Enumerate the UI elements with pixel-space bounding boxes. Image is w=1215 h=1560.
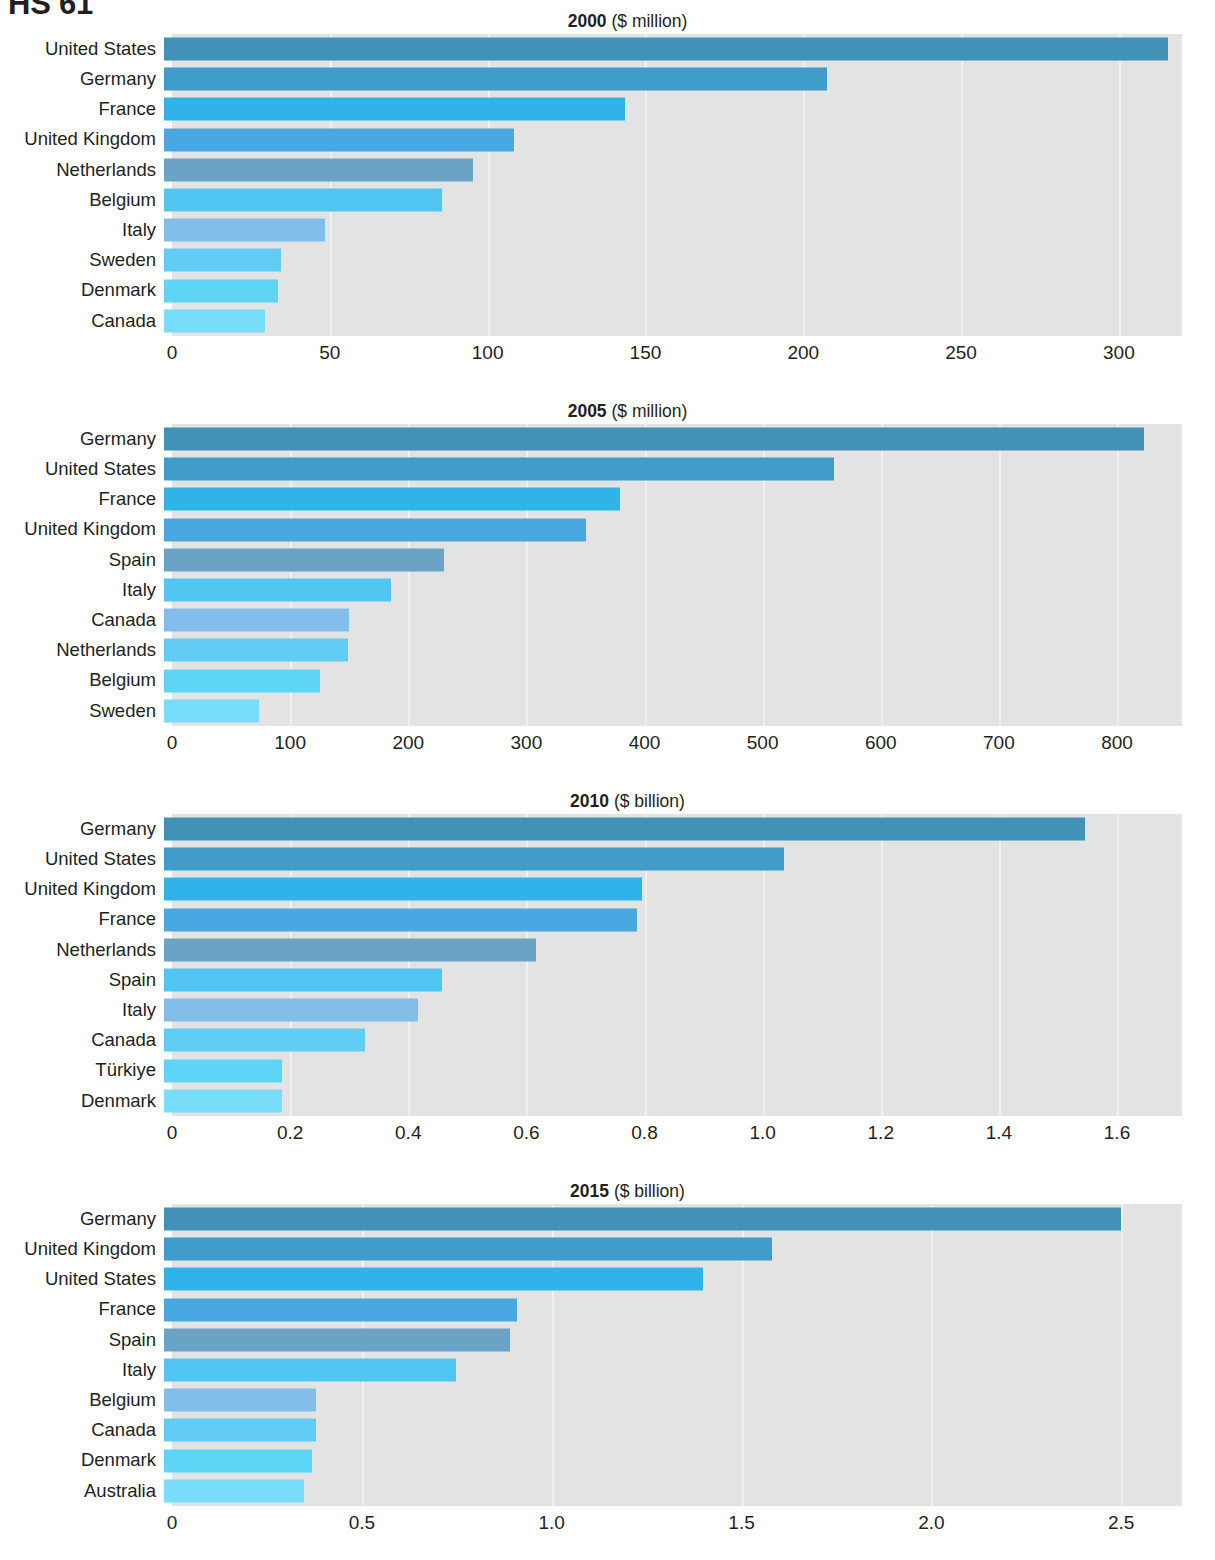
x-axis: 050100150200250300 xyxy=(0,336,1215,370)
category-label: France xyxy=(0,100,164,119)
bar-track xyxy=(164,605,1215,635)
bar xyxy=(164,969,442,992)
bar xyxy=(164,1419,316,1442)
bar-row: United States xyxy=(0,454,1215,484)
bar-track xyxy=(164,245,1215,275)
bar xyxy=(164,428,1144,451)
bar-row: Italy xyxy=(0,1355,1215,1385)
bar xyxy=(164,128,514,151)
category-label: Germany xyxy=(0,1210,164,1229)
bar-track xyxy=(164,1325,1215,1355)
bar-row: Türkiye xyxy=(0,1056,1215,1086)
chart-title-unit: ($ billion) xyxy=(609,1181,685,1201)
bar xyxy=(164,1449,312,1472)
bar-row: Canada xyxy=(0,605,1215,635)
category-label: Italy xyxy=(0,1001,164,1020)
bar-row: Belgium xyxy=(0,666,1215,696)
category-label: Türkiye xyxy=(0,1061,164,1080)
bar-track xyxy=(164,635,1215,665)
bar xyxy=(164,189,442,212)
x-axis-tick-label: 1.2 xyxy=(868,1122,894,1144)
bar xyxy=(164,609,349,632)
category-label: Italy xyxy=(0,581,164,600)
bar xyxy=(164,1029,365,1052)
bar-row: Denmark xyxy=(0,1086,1215,1116)
category-label: France xyxy=(0,490,164,509)
x-axis-tick-label: 2.5 xyxy=(1108,1512,1134,1534)
bar-row: Australia xyxy=(0,1476,1215,1506)
bar-track xyxy=(164,1234,1215,1264)
x-axis-tick-label: 0 xyxy=(167,732,178,754)
category-label: Denmark xyxy=(0,281,164,300)
bar-row: Netherlands xyxy=(0,635,1215,665)
bar xyxy=(164,1298,517,1321)
bar-row: Belgium xyxy=(0,185,1215,215)
bar-row: United States xyxy=(0,34,1215,64)
bar xyxy=(164,1208,1121,1231)
bar-row: United Kingdom xyxy=(0,125,1215,155)
x-axis-tick-label: 50 xyxy=(319,342,340,364)
bar-row: Sweden xyxy=(0,696,1215,726)
x-axis-tick-label: 2.0 xyxy=(918,1512,944,1534)
x-axis-tick-label: 200 xyxy=(392,732,424,754)
bar-row: United States xyxy=(0,844,1215,874)
bar-track xyxy=(164,874,1215,904)
bar xyxy=(164,878,642,901)
x-axis-tick-label: 300 xyxy=(1103,342,1135,364)
bar-track xyxy=(164,1025,1215,1055)
bar-track xyxy=(164,814,1215,844)
chart-title: 2005 ($ million) xyxy=(0,398,1215,424)
category-label: Germany xyxy=(0,430,164,449)
bar xyxy=(164,279,278,302)
x-axis-tick-label: 1.0 xyxy=(538,1512,564,1534)
chart-title-year: 2010 xyxy=(570,791,609,811)
category-label: Spain xyxy=(0,971,164,990)
bar-track xyxy=(164,1355,1215,1385)
category-label: Germany xyxy=(0,820,164,839)
x-axis: 0100200300400500600700800 xyxy=(0,726,1215,760)
bar-row: Spain xyxy=(0,965,1215,995)
bar xyxy=(164,158,473,181)
category-label: Spain xyxy=(0,1331,164,1350)
bar-track xyxy=(164,666,1215,696)
bar xyxy=(164,219,325,242)
bar-row: United States xyxy=(0,1264,1215,1294)
bar-track xyxy=(164,575,1215,605)
category-label: Netherlands xyxy=(0,161,164,180)
bar-row: Canada xyxy=(0,1415,1215,1445)
x-axis-tick-label: 600 xyxy=(865,732,897,754)
bar-track xyxy=(164,276,1215,306)
bar-rows: GermanyUnited StatesFranceUnited Kingdom… xyxy=(0,424,1215,726)
bar-row: Belgium xyxy=(0,1385,1215,1415)
x-axis-tick-label: 1.0 xyxy=(749,1122,775,1144)
x-axis-tick-label: 300 xyxy=(511,732,543,754)
bar-rows: GermanyUnited StatesUnited KingdomFrance… xyxy=(0,814,1215,1116)
category-label: Sweden xyxy=(0,251,164,270)
category-label: Netherlands xyxy=(0,641,164,660)
x-axis-tick-label: 0 xyxy=(167,342,178,364)
bar-track xyxy=(164,1204,1215,1234)
x-axis-tick-label: 150 xyxy=(630,342,662,364)
chart-title: 2015 ($ billion) xyxy=(0,1178,1215,1204)
chart-title-year: 2005 xyxy=(568,401,607,421)
category-label: Italy xyxy=(0,1361,164,1380)
bar-track xyxy=(164,844,1215,874)
bar-row: Germany xyxy=(0,814,1215,844)
bar-row: Netherlands xyxy=(0,155,1215,185)
x-axis-tick-label: 250 xyxy=(945,342,977,364)
bar xyxy=(164,1089,282,1112)
chart-title-year: 2015 xyxy=(570,1181,609,1201)
bar-row: France xyxy=(0,905,1215,935)
chart-panel-2010: 2010 ($ billion)GermanyUnited StatesUnit… xyxy=(0,788,1215,1150)
x-axis-tick-label: 0 xyxy=(167,1512,178,1534)
bar-track xyxy=(164,454,1215,484)
bar-row: Italy xyxy=(0,995,1215,1025)
bar-row: Italy xyxy=(0,215,1215,245)
bar-track xyxy=(164,1415,1215,1445)
chart-plot-area: GermanyUnited StatesUnited KingdomFrance… xyxy=(0,814,1215,1116)
category-label: France xyxy=(0,1300,164,1319)
bar-row: United Kingdom xyxy=(0,515,1215,545)
bar-row: Sweden xyxy=(0,245,1215,275)
x-axis-tick-label: 0.4 xyxy=(395,1122,421,1144)
bar xyxy=(164,639,348,662)
